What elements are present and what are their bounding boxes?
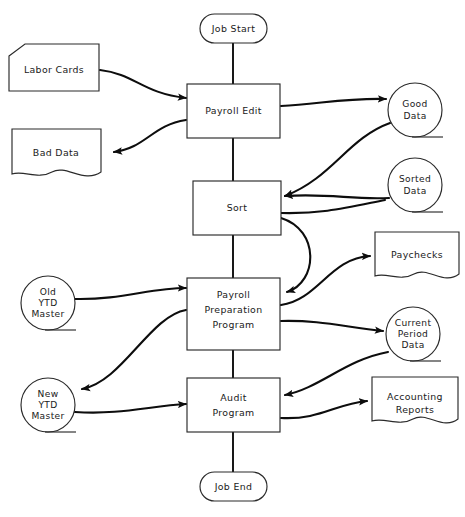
edge-gooddata-sort [285,123,390,196]
node-job-end[interactable]: Job End [200,472,267,501]
node-audit-program-label-line1: Audit [220,392,246,403]
node-payroll-prep-label-line1: Payroll [217,289,251,300]
edge-payrollprep-currentperioddata [281,321,383,331]
node-payroll-edit[interactable]: Payroll Edit [187,84,280,138]
edge-payrollprep-newytdmaster [82,310,186,389]
node-job-end-label: Job End [214,481,253,492]
node-accounting-reports[interactable]: Accounting Reports [372,377,458,423]
node-sorted-data-label-line2: Data [403,186,426,196]
node-job-start[interactable]: Job Start [200,14,267,43]
node-current-period-data[interactable]: Current Period Data [386,307,441,361]
node-sort[interactable]: Sort [193,181,281,235]
node-paychecks-label: Paychecks [391,249,443,260]
node-payroll-prep-label-line3: Program [212,319,254,330]
node-good-data[interactable]: Good Data [388,83,443,137]
edge-auditprogram-accountingreports [281,401,367,418]
node-job-start-label: Job Start [211,23,255,34]
node-audit-program[interactable]: Audit Program [187,378,280,432]
node-sorted-data[interactable]: Sorted Data [388,158,443,212]
edge-newytdmaster-auditprogram [75,404,186,413]
edge-oldytdmaster-payrollprep [75,288,186,299]
edge-payrolledit-baddata [114,120,186,152]
edge-sort-payrollprep-curve [281,218,310,292]
edge-payrolledit-gooddata [281,99,386,106]
edge-sort-sorteddata [281,200,385,213]
node-sort-label: Sort [227,202,248,213]
node-current-period-data-label-line2: Period [398,329,428,339]
node-accounting-reports-label-line1: Accounting [387,391,443,402]
node-paychecks[interactable]: Paychecks [375,232,459,278]
edge-laborcards-payrolledit [100,70,186,98]
node-current-period-data-label-line1: Current [395,318,432,328]
node-old-ytd-master-label-line2: YTD [37,298,57,308]
node-payroll-edit-label: Payroll Edit [205,105,261,116]
node-new-ytd-master-label-line3: Master [31,411,64,421]
node-good-data-label-line2: Data [403,111,426,121]
edge-sorteddata-sort [285,195,389,198]
flowchart-svg: Job Start Labor Cards Payroll Edit Bad D… [0,0,465,517]
node-new-ytd-master[interactable]: New YTD Master [21,378,76,432]
node-sorted-data-label-line1: Sorted [399,174,431,184]
node-current-period-data-label-line3: Data [401,340,424,350]
node-old-ytd-master-label-line1: Old [40,287,57,297]
node-good-data-label-line1: Good [402,99,427,109]
node-old-ytd-master[interactable]: Old YTD Master [21,276,76,330]
node-accounting-reports-label-line2: Reports [396,404,434,415]
node-audit-program-label-line2: Program [212,407,254,418]
node-payroll-prep-label-line2: Preparation [204,304,262,315]
node-bad-data[interactable]: Bad Data [12,129,101,176]
node-labor-cards-label: Labor Cards [24,64,84,75]
node-payroll-preparation-program[interactable]: Payroll Preparation Program [187,278,280,350]
node-old-ytd-master-label-line3: Master [31,309,64,319]
node-new-ytd-master-label-line2: YTD [37,400,57,410]
flowchart-canvas: Job Start Labor Cards Payroll Edit Bad D… [0,0,465,517]
edge-payrollprep-paychecks [281,256,370,305]
node-bad-data-label: Bad Data [33,147,79,158]
node-new-ytd-master-label-line1: New [38,389,59,399]
node-labor-cards[interactable]: Labor Cards [9,44,99,91]
